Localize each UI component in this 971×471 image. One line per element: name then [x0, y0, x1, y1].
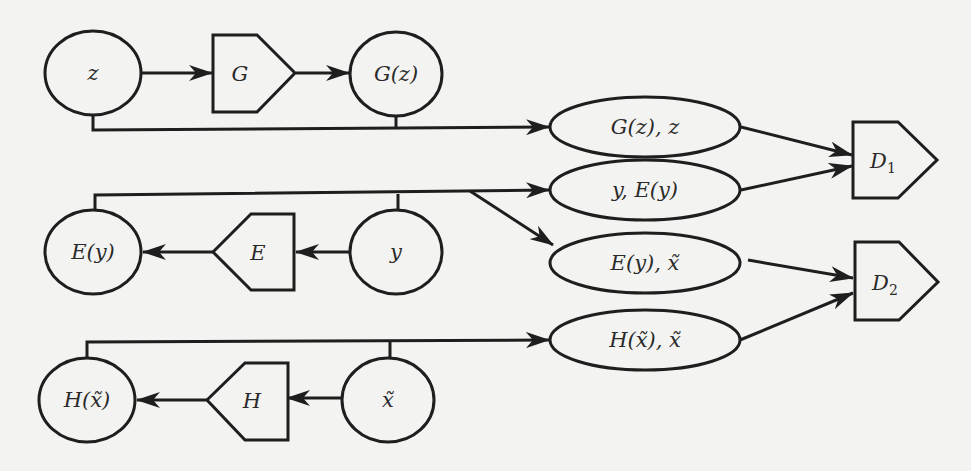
edge-Gz_z-to-D1	[741, 127, 852, 155]
node-D1-discriminator: D1	[853, 122, 937, 198]
node-Ey-label: E(y)	[70, 240, 115, 264]
node-y-label: y	[389, 240, 403, 264]
node-Hxt-xt-label: H(x̃), x̃	[608, 328, 681, 352]
gan-architecture-diagram: z G G(z) G(z), z y, E(y) E(y), x̃ H(x̃),…	[0, 0, 971, 471]
node-Ey: E(y)	[45, 210, 141, 294]
node-z: z	[45, 31, 141, 115]
edge-Hxt-xt-to-pair	[87, 340, 549, 358]
node-H: H	[207, 363, 288, 440]
node-Ey-xt-pair: E(y), x̃	[550, 233, 740, 293]
node-Hxt-label: H(x̃)	[63, 388, 111, 412]
node-G-generator: G	[213, 35, 295, 112]
edge-z-Gz-to-pair	[93, 115, 549, 130]
node-y: y	[350, 210, 442, 294]
edge-Ey_xt-to-D2	[748, 260, 853, 278]
node-Gz: G(z)	[350, 32, 442, 116]
node-G-label: G	[232, 62, 249, 86]
edge-to-Ey_xt	[470, 191, 553, 245]
node-z-label: z	[86, 61, 99, 85]
node-xt: x̃	[342, 358, 434, 442]
edge-Ey-y-to-pair	[95, 190, 549, 211]
node-Gz-label: G(z)	[374, 62, 418, 86]
edge-y_Ey-to-D1	[741, 166, 852, 190]
node-Gz-z-pair: G(z), z	[550, 97, 740, 157]
node-xt-label: x̃	[382, 388, 394, 412]
node-y-Ey-label: y, E(y)	[611, 178, 678, 202]
node-E-label: E	[249, 241, 265, 265]
node-Hxt-xt-pair: H(x̃), x̃	[550, 310, 740, 370]
node-H-label: H	[242, 389, 262, 413]
node-Ey-xt-label: E(y), x̃	[610, 251, 680, 275]
node-Hxt: H(x̃)	[39, 358, 135, 442]
node-D2-discriminator: D2	[855, 242, 938, 320]
node-Gz-z-label: G(z), z	[611, 115, 681, 139]
node-y-Ey-pair: y, E(y)	[550, 160, 740, 220]
node-E-encoder: E	[213, 214, 294, 290]
edge-Hxt_xt-to-D2	[740, 293, 853, 340]
